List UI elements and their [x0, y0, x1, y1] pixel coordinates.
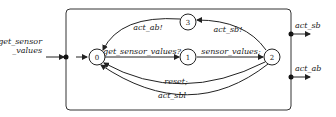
- input-port-label-1: get_sensor: [0, 37, 43, 46]
- transition-label: reset;: [164, 77, 188, 86]
- output-port-label: act_ab: [295, 64, 321, 73]
- transition-label: act_ab!: [133, 23, 163, 32]
- svg-text:2: 2: [270, 54, 274, 62]
- automaton-diagram: get_sensor _values act_sb act_ab get_sen…: [0, 0, 336, 117]
- svg-text:1: 1: [186, 54, 190, 62]
- transition-label: get_sensor_values?: [103, 47, 182, 56]
- output-port-label: act_sb: [295, 21, 321, 30]
- state-1: 1: [180, 49, 196, 65]
- svg-text:0: 0: [95, 54, 99, 62]
- state-2: 2: [264, 49, 280, 65]
- state-0: 0: [89, 49, 105, 65]
- transition-label: sensor_values;: [201, 47, 261, 56]
- transition-label: act_sb!: [214, 25, 243, 34]
- svg-text:3: 3: [186, 19, 190, 27]
- output-port-act-sb: act_sb: [289, 21, 321, 37]
- input-port-label-2: _values: [12, 46, 42, 55]
- transition-label: act_sbl: [158, 91, 187, 100]
- input-port: get_sensor _values: [0, 37, 69, 60]
- output-port-act-ab: act_ab: [289, 64, 322, 80]
- state-3: 3: [180, 14, 196, 30]
